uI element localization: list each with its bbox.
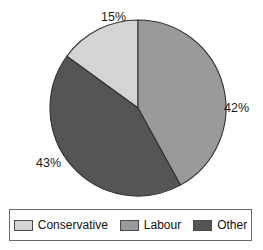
slice-value-label-conservative: 15%	[101, 11, 126, 24]
legend-item-other: Other	[193, 219, 247, 231]
legend-item-conservative: Conservative	[14, 219, 108, 231]
chart-legend: Conservative Labour Other	[9, 209, 252, 241]
legend-swatch-conservative	[14, 220, 33, 231]
legend-item-labour: Labour	[120, 219, 181, 231]
legend-swatch-other	[193, 220, 212, 231]
slice-value-label-labour: 42%	[224, 102, 249, 115]
legend-label-conservative: Conservative	[38, 219, 108, 231]
pie-chart-figure: 15% 42% 43% Conservative Labour Other	[0, 0, 263, 250]
pie-slice-group	[50, 20, 226, 196]
slice-value-label-other: 43%	[36, 157, 61, 170]
legend-label-labour: Labour	[144, 219, 181, 231]
legend-label-other: Other	[217, 219, 247, 231]
legend-swatch-labour	[120, 220, 139, 231]
pie-plot-area: 15% 42% 43%	[0, 0, 263, 205]
